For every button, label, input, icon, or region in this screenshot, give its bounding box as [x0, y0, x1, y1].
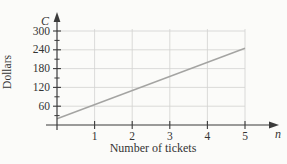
y-axis-title: Dollars [1, 55, 13, 89]
chart-figure: 6012018024030012345CnDollarsNumber of ti… [0, 0, 287, 164]
y-tick-label: 240 [33, 43, 51, 55]
y-axis-symbol: C [41, 14, 50, 28]
y-tick-label: 60 [39, 100, 51, 112]
x-tick-label: 1 [92, 130, 98, 142]
y-tick-label: 120 [33, 81, 51, 93]
x-axis-symbol: n [275, 127, 281, 141]
x-tick-label: 5 [242, 130, 248, 142]
ticket-cost-line-chart: 6012018024030012345CnDollarsNumber of ti… [0, 0, 287, 164]
x-tick-label: 4 [205, 130, 211, 142]
y-tick-label: 180 [33, 62, 51, 74]
x-axis-title: Number of tickets [110, 141, 197, 155]
